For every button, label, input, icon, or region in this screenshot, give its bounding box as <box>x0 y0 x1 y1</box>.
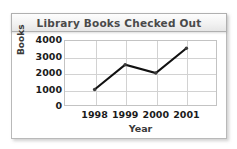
y-tick-label: 1000 <box>28 85 62 95</box>
x-axis-title: Year <box>64 123 217 134</box>
data-point-marker <box>93 88 96 91</box>
data-point-marker <box>124 63 127 66</box>
y-tick-label: 0 <box>28 101 62 111</box>
chart-figure: Library Books Checked Out Books 01000200… <box>0 0 237 149</box>
y-tick-label: 3000 <box>28 52 62 62</box>
chart-title: Library Books Checked Out <box>36 17 201 29</box>
plot-region <box>64 40 217 106</box>
line-series-svg <box>64 40 217 106</box>
y-axis-tick-labels: 01000200030004000 <box>26 40 62 106</box>
data-point-marker <box>154 71 157 74</box>
y-axis-title: Books <box>16 24 26 55</box>
chart-title-bar: Library Books Checked Out <box>11 13 227 32</box>
y-tick-label: 2000 <box>28 68 62 78</box>
y-tick-label: 4000 <box>28 35 62 45</box>
x-tick-label: 2001 <box>165 109 207 120</box>
data-line <box>95 48 187 89</box>
x-axis-tick-labels: 1998199920002001 <box>64 109 217 122</box>
data-point-marker <box>185 47 188 50</box>
